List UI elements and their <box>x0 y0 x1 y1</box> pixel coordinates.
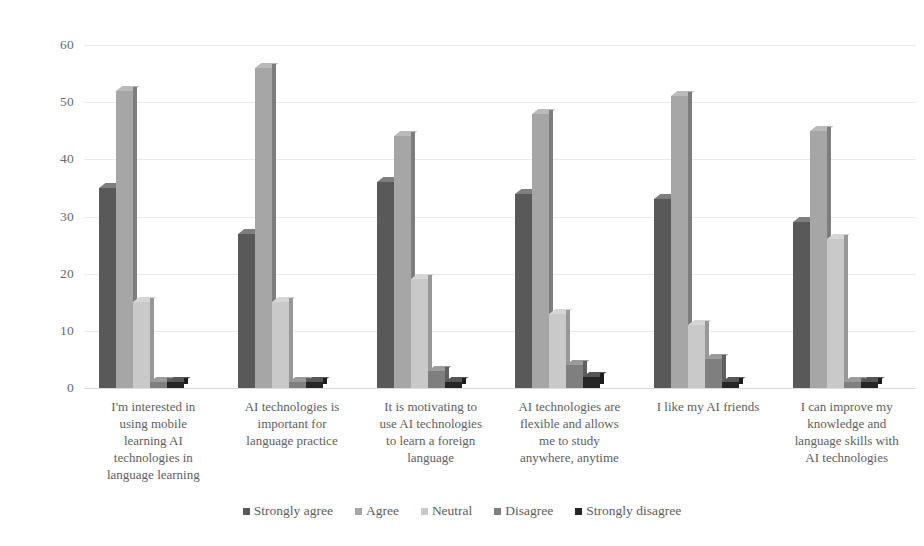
legend-swatch-icon <box>355 508 362 515</box>
legend-item[interactable]: Disagree <box>494 504 553 518</box>
bar[interactable] <box>99 188 116 388</box>
bar[interactable] <box>377 182 394 388</box>
bar[interactable] <box>272 302 289 388</box>
bar-chart: 6050403020100 I'm interested inusing mob… <box>0 0 924 546</box>
bar-face <box>411 279 428 388</box>
bar[interactable] <box>394 136 411 388</box>
bar-face <box>583 377 600 388</box>
bar-face <box>654 199 671 388</box>
bar-group <box>361 0 500 400</box>
x-axis-category-label: AI technologies isimportant forlanguage … <box>223 398 362 498</box>
y-axis-tick-label: 50 <box>28 95 74 109</box>
bar-side <box>739 378 743 384</box>
bar[interactable] <box>671 96 688 388</box>
bar-face <box>532 114 549 388</box>
x-axis-category-label: I like my AI friends <box>639 398 778 498</box>
bar-face <box>688 325 705 388</box>
bar[interactable] <box>445 382 462 388</box>
bar-face <box>827 239 844 388</box>
bar[interactable] <box>688 325 705 388</box>
bar-face <box>394 136 411 388</box>
bar[interactable] <box>844 382 861 388</box>
bar-face <box>722 382 739 388</box>
bar[interactable] <box>566 365 583 388</box>
bar-face <box>306 382 323 388</box>
bar-side <box>289 298 293 384</box>
bar[interactable] <box>827 239 844 388</box>
legend-item[interactable]: Neutral <box>421 504 472 518</box>
bar-face <box>549 314 566 388</box>
bar[interactable] <box>722 382 739 388</box>
bar-face <box>445 382 462 388</box>
bar-side <box>844 235 848 384</box>
bar[interactable] <box>116 91 133 388</box>
bar-face <box>116 91 133 388</box>
bar[interactable] <box>654 199 671 388</box>
legend-swatch-icon <box>243 508 250 515</box>
bar[interactable] <box>793 222 810 388</box>
legend-label: Agree <box>366 504 399 518</box>
bar[interactable] <box>238 234 255 388</box>
bar[interactable] <box>810 131 827 388</box>
y-axis-tick-label: 60 <box>28 38 74 52</box>
bar-face <box>428 371 445 388</box>
legend-label: Neutral <box>432 504 472 518</box>
legend-swatch-icon <box>575 508 582 515</box>
legend-item[interactable]: Strongly agree <box>243 504 333 518</box>
bar-face <box>289 382 306 388</box>
bar[interactable] <box>150 382 167 388</box>
bar-face <box>133 302 150 388</box>
bar-side <box>184 378 188 384</box>
bar-cluster <box>223 12 362 388</box>
bar-face <box>238 234 255 388</box>
bar[interactable] <box>861 382 878 388</box>
legend-label: Disagree <box>505 504 553 518</box>
bar-face <box>150 382 167 388</box>
bar-face <box>793 222 810 388</box>
bar[interactable] <box>549 314 566 388</box>
bar-side <box>323 378 327 384</box>
x-axis-category-label: I'm interested inusing mobilelearning AI… <box>84 398 223 498</box>
y-axis-tick-label: 40 <box>28 152 74 166</box>
bar[interactable] <box>167 382 184 388</box>
bar-face <box>705 359 722 388</box>
legend-item[interactable]: Agree <box>355 504 399 518</box>
bar-face <box>167 382 184 388</box>
bar[interactable] <box>705 359 722 388</box>
bar-face <box>99 188 116 388</box>
y-axis-tick-label: 30 <box>28 210 74 224</box>
bar-face <box>377 182 394 388</box>
bar-cluster <box>500 12 639 388</box>
bar-side <box>150 298 154 384</box>
bar-cluster <box>84 12 223 388</box>
bar[interactable] <box>583 377 600 388</box>
bar[interactable] <box>532 114 549 388</box>
bar[interactable] <box>411 279 428 388</box>
bar-side <box>878 378 882 384</box>
bar-groups <box>84 0 916 400</box>
bar-side <box>600 373 604 384</box>
bar-group <box>777 0 916 400</box>
bar-face <box>255 68 272 388</box>
legend-label: Strongly agree <box>254 504 333 518</box>
bar-cluster <box>639 12 778 388</box>
bar[interactable] <box>306 382 323 388</box>
bar[interactable] <box>428 371 445 388</box>
bar-face <box>861 382 878 388</box>
bar[interactable] <box>133 302 150 388</box>
bar-side <box>462 378 466 384</box>
y-axis: 6050403020100 <box>28 0 74 400</box>
plot-area: 6050403020100 <box>0 0 924 400</box>
bar-face <box>671 96 688 388</box>
chart-legend: Strongly agreeAgreeNeutralDisagreeStrong… <box>0 500 924 522</box>
bar-group <box>84 0 223 400</box>
bar-face <box>810 131 827 388</box>
legend-item[interactable]: Strongly disagree <box>575 504 681 518</box>
bar-group <box>223 0 362 400</box>
bar[interactable] <box>289 382 306 388</box>
bar[interactable] <box>515 194 532 388</box>
bar[interactable] <box>255 68 272 388</box>
bar-face <box>272 302 289 388</box>
bar-face <box>566 365 583 388</box>
x-axis-category-label: It is motivating touse AI technologiesto… <box>361 398 500 498</box>
